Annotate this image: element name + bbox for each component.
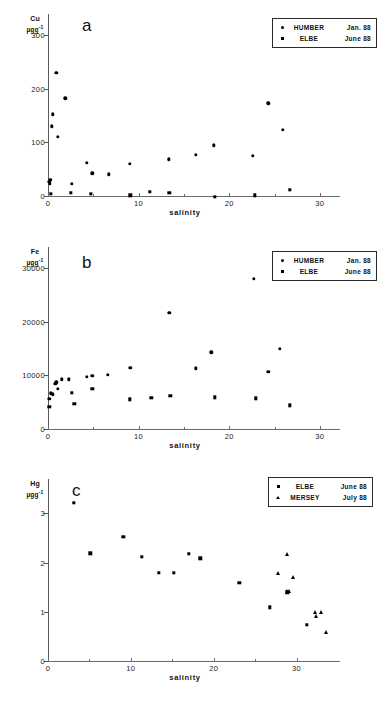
data-point-a-humber-8	[70, 182, 73, 185]
circle-marker-icon	[281, 26, 284, 29]
data-point-c-mersey-4	[287, 589, 291, 593]
data-point-b-elbe-6	[169, 394, 172, 397]
legend-label-elbe: ELBE	[287, 35, 331, 42]
data-point-b-humber-14	[209, 350, 212, 353]
x-axis-line-a	[48, 196, 340, 197]
x-minor-tick-b-1	[184, 427, 185, 430]
x-tick-label-c-3: 30	[282, 664, 312, 673]
data-point-b-humber-17	[278, 347, 281, 350]
data-point-a-humber-4	[50, 124, 53, 127]
x-minor-tick-a-1	[184, 194, 185, 197]
data-point-a-elbe-1	[69, 191, 72, 194]
data-point-b-humber-11	[129, 366, 132, 369]
data-point-c-mersey-7	[319, 610, 323, 614]
y-tick-label-a-2: 200	[31, 85, 45, 94]
x-minor-tick-a-0	[93, 194, 94, 197]
data-point-c-mersey-6	[314, 614, 318, 618]
legend-date-elbe: June 88	[327, 483, 367, 490]
data-point-c-elbe-4	[157, 571, 160, 574]
data-point-c-mersey-8	[324, 630, 328, 634]
square-marker-icon	[281, 37, 284, 40]
x-tick-c-2	[214, 658, 215, 662]
data-point-a-humber-9	[85, 161, 88, 164]
data-point-a-humber-6	[56, 135, 59, 138]
x-tick-label-a-0: 0	[33, 199, 63, 208]
data-point-b-humber-7	[67, 378, 70, 381]
data-point-c-mersey-5	[313, 610, 317, 614]
data-point-a-humber-5	[54, 71, 57, 74]
x-tick-a-3	[320, 193, 321, 197]
data-point-b-elbe-9	[288, 403, 291, 406]
data-point-b-humber-9	[91, 374, 94, 377]
legend-label-humber: HUMBER	[287, 257, 331, 264]
x-tick-label-b-0: 0	[33, 432, 63, 441]
legend-label-elbe: ELBE	[283, 483, 327, 490]
legend-date-elbe: June 88	[331, 35, 371, 42]
data-point-a-humber-11	[107, 173, 110, 176]
legend-marker-mersey	[273, 496, 283, 499]
legend-label-mersey: MERSEY	[283, 494, 327, 501]
data-point-a-elbe-6	[213, 195, 216, 198]
x-minor-tick-c-0	[89, 659, 90, 662]
x-tick-c-0	[48, 658, 49, 662]
x-tick-b-3	[320, 426, 321, 430]
y-tick-label-b-1: 10000	[22, 371, 45, 380]
x-minor-tick-c-2	[255, 659, 256, 662]
legend-label-humber: HUMBER	[287, 24, 331, 31]
data-point-a-humber-13	[167, 158, 170, 161]
data-point-a-humber-16	[251, 154, 254, 157]
plot-area-c	[48, 483, 338, 658]
data-point-a-humber-2	[49, 178, 52, 181]
data-point-c-elbe-9	[268, 606, 271, 609]
x-minor-tick-c-1	[172, 659, 173, 662]
x-axis-title-b: salinity	[140, 441, 230, 450]
data-point-c-mersey-2	[291, 575, 295, 579]
data-point-b-humber-16	[267, 370, 270, 373]
data-point-c-elbe-0	[72, 501, 75, 504]
data-point-a-elbe-4	[148, 190, 151, 193]
x-tick-a-2	[229, 193, 230, 197]
data-point-b-elbe-4	[128, 398, 131, 401]
data-point-c-mersey-0	[285, 552, 289, 556]
y-axis-exponent-c: -1	[39, 489, 44, 495]
legend-date-humber: Jan. 88	[331, 24, 371, 31]
x-tick-label-b-1: 10	[124, 432, 154, 441]
data-point-b-humber-12	[168, 311, 171, 314]
panel-c: Hg µgg-1 c 0123 0102030 salinity ELBEJun…	[0, 465, 389, 703]
data-point-c-elbe-6	[187, 552, 190, 555]
data-point-a-elbe-3	[129, 193, 132, 196]
data-point-a-elbe-2	[89, 192, 92, 195]
data-point-b-humber-10	[106, 373, 109, 376]
legend-date-elbe: June 88	[331, 268, 371, 275]
x-tick-label-c-0: 0	[33, 664, 63, 673]
data-point-c-elbe-1	[89, 552, 92, 555]
data-point-c-elbe-11	[305, 623, 308, 626]
data-point-b-humber-6	[60, 378, 63, 381]
data-point-b-humber-8	[85, 375, 88, 378]
x-minor-tick-a-2	[275, 194, 276, 197]
x-tick-c-3	[297, 658, 298, 662]
data-point-a-humber-7	[64, 97, 67, 100]
square-marker-icon	[277, 485, 280, 488]
data-point-a-humber-10	[91, 172, 94, 175]
data-point-c-elbe-8	[238, 581, 241, 584]
figure-root: Cu µgg-1 a 0100200300 0102030 salinity H…	[0, 0, 389, 703]
data-point-c-elbe-2	[122, 535, 125, 538]
data-point-b-humber-0	[48, 397, 51, 400]
data-point-b-humber-15	[252, 277, 255, 280]
data-point-b-humber-2	[51, 393, 54, 396]
data-point-c-elbe-3	[140, 555, 143, 558]
data-point-a-humber-15	[212, 144, 215, 147]
data-point-a-elbe-0	[49, 192, 52, 195]
x-tick-label-a-1: 10	[124, 199, 154, 208]
square-marker-icon	[281, 270, 284, 273]
legend-a: HUMBERJan. 88ELBEJune 88	[272, 18, 377, 48]
x-tick-b-0	[48, 426, 49, 430]
data-point-a-humber-1	[48, 182, 51, 185]
panel-a: Cu µgg-1 a 0100200300 0102030 salinity H…	[0, 0, 389, 233]
legend-b: HUMBERJan. 88ELBEJune 88	[272, 251, 377, 281]
y-tick-label-a-3: 300	[31, 31, 45, 40]
legend-marker-elbe	[277, 270, 287, 273]
x-tick-label-c-2: 20	[199, 664, 229, 673]
y-axis-unit-c: µgg	[26, 491, 38, 498]
